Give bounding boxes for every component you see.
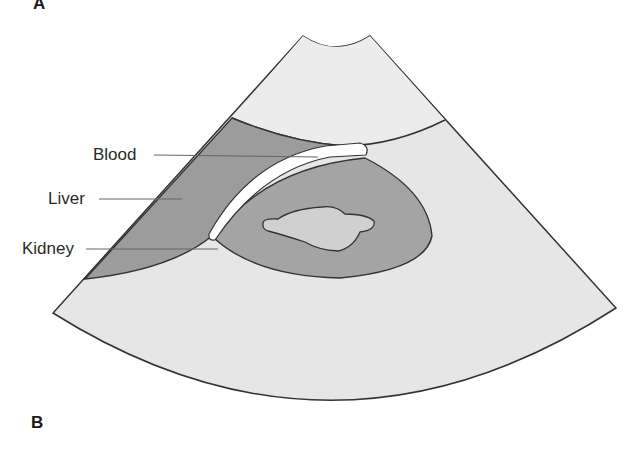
kidney-label: Kidney — [22, 240, 74, 257]
liver-label: Liver — [48, 190, 85, 207]
panel-label-b: B — [31, 414, 43, 431]
ultrasound-fan-diagram — [0, 0, 636, 452]
blood-label: Blood — [93, 146, 136, 163]
